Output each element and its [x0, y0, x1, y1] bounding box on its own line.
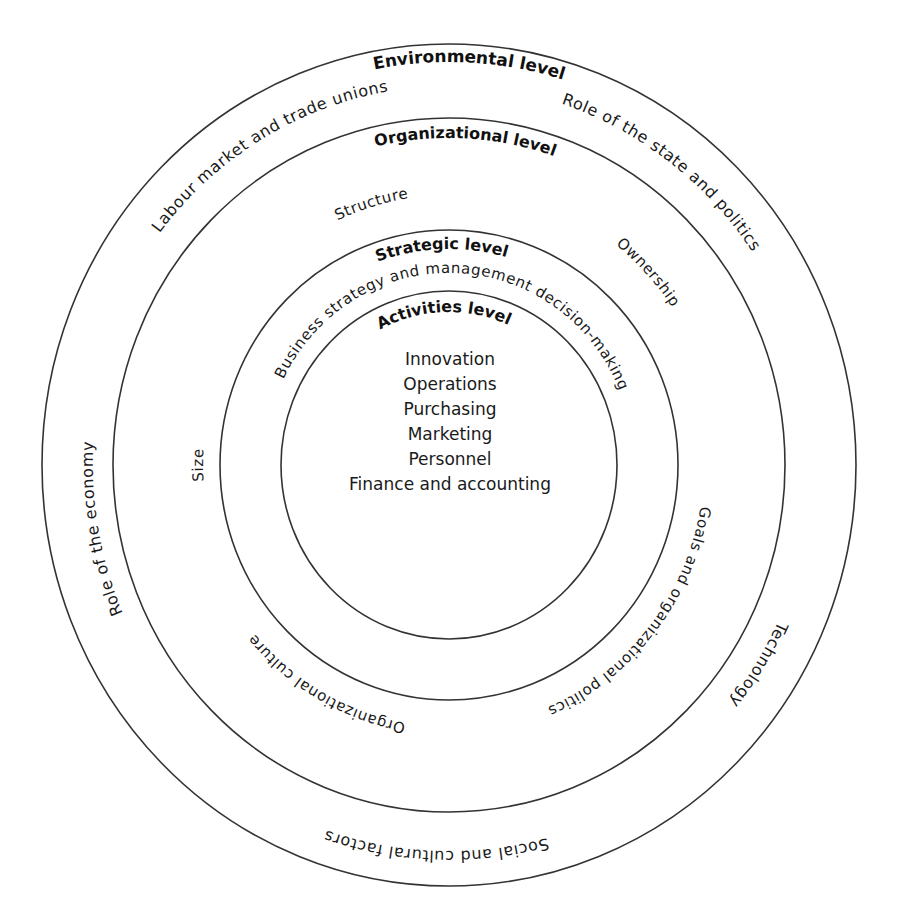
- structure-label: Structure: [332, 184, 410, 224]
- nested-levels-diagram: Environmental levelLabour market and tra…: [0, 0, 901, 921]
- activity-item: Finance and accounting: [349, 474, 551, 494]
- technology-label: Technology: [726, 618, 793, 711]
- activity-item: Innovation: [405, 349, 495, 369]
- business-strategy-label: Business strategy and management decisio…: [271, 259, 633, 393]
- goals-politics-label: Goals and organizational politics: [545, 505, 714, 720]
- activities-level-title: Activities level: [374, 297, 515, 333]
- activity-item: Operations: [403, 374, 497, 394]
- org-culture-label: Organizational culture: [244, 631, 407, 737]
- ownership-label: Ownership: [613, 234, 684, 310]
- environmental-level-title: Environmental level: [371, 46, 568, 84]
- activities-list: InnovationOperationsPurchasingMarketingP…: [349, 349, 551, 494]
- activity-item: Marketing: [408, 424, 493, 444]
- social-cultural-label: Social and cultural factors: [321, 826, 551, 866]
- size-label: Size: [189, 448, 207, 482]
- activity-item: Personnel: [408, 449, 491, 469]
- activity-item: Purchasing: [403, 399, 496, 419]
- role-of-state-label: Role of the state and politics: [560, 89, 765, 254]
